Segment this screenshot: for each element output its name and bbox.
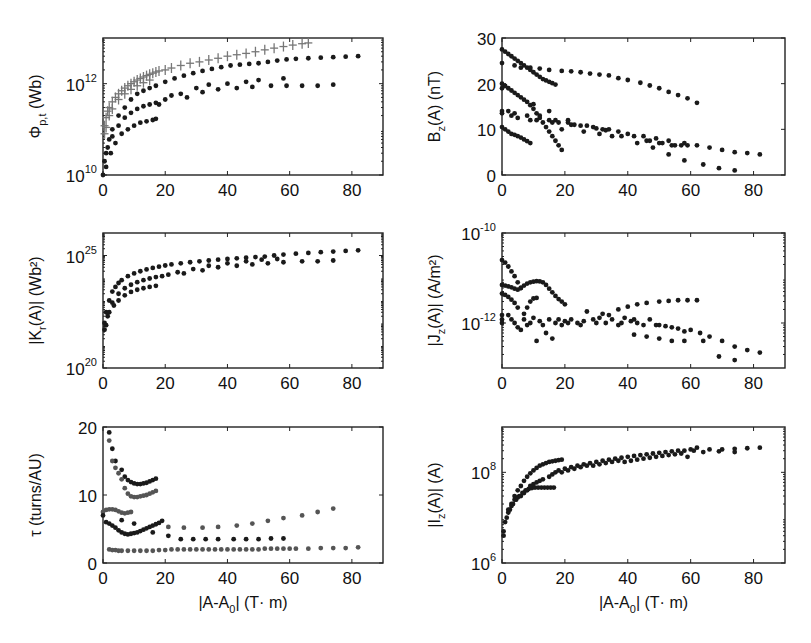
dot-marker — [306, 56, 311, 61]
dot-marker — [113, 285, 118, 290]
dot-marker — [607, 73, 612, 78]
dot-marker — [501, 533, 506, 538]
dot-marker — [531, 315, 536, 320]
dot-marker — [281, 536, 286, 541]
dot-marker — [275, 58, 280, 63]
dot-marker — [104, 165, 109, 170]
dot-marker — [625, 304, 630, 309]
dot-marker — [588, 71, 593, 76]
x-tick-label: 40 — [618, 181, 637, 200]
dot-marker — [559, 68, 564, 73]
dot-marker — [119, 548, 124, 553]
dot-marker — [129, 510, 134, 515]
y-tick-label: 106 — [471, 551, 496, 574]
dot-marker — [318, 250, 323, 255]
dot-marker — [256, 78, 261, 83]
dot-marker — [122, 286, 127, 291]
dot-marker — [625, 132, 630, 137]
x-tick-label: 40 — [218, 374, 237, 393]
dot-marker — [644, 300, 649, 305]
dot-marker — [512, 63, 517, 68]
dot-marker — [537, 66, 542, 71]
y-axis-label: |Iz(A)| (A) — [426, 462, 447, 527]
dot-marker — [594, 126, 599, 131]
x-tick-label: 80 — [342, 181, 361, 200]
dot-marker — [178, 91, 183, 96]
dot-marker — [581, 129, 586, 134]
dot-marker — [641, 323, 646, 328]
dot-marker — [166, 533, 171, 538]
dot-marker — [757, 445, 762, 450]
dot-marker — [169, 547, 174, 552]
panel-kr-helicity: 02040608010201025|Kr(A)| (Wb²) — [27, 233, 383, 393]
dot-marker — [293, 56, 298, 61]
dot-marker — [206, 547, 211, 552]
dot-marker — [225, 81, 230, 86]
dot-marker — [107, 438, 112, 443]
x-tick-label: 0 — [497, 374, 506, 393]
dot-marker — [219, 547, 224, 552]
dot-marker — [547, 68, 552, 73]
dot-marker — [666, 138, 671, 143]
dot-marker — [632, 454, 637, 459]
dot-marker — [110, 134, 115, 139]
dot-marker — [356, 545, 361, 550]
dot-marker — [594, 321, 599, 326]
dot-marker — [119, 518, 124, 523]
dot-marker — [597, 315, 602, 320]
dot-marker — [506, 264, 511, 269]
data-points — [102, 248, 360, 332]
dot-marker — [638, 453, 643, 458]
dot-marker — [540, 477, 545, 482]
dot-marker — [250, 262, 255, 267]
dot-marker — [512, 300, 517, 305]
x-tick-label: 0 — [497, 569, 506, 588]
dot-marker — [616, 76, 621, 81]
dot-marker — [244, 79, 249, 84]
dot-marker — [732, 446, 737, 451]
dot-marker — [512, 111, 517, 116]
dot-marker — [293, 251, 298, 256]
dot-marker — [616, 307, 621, 312]
dot-marker — [281, 516, 286, 521]
dot-marker — [647, 138, 652, 143]
dot-marker — [172, 76, 177, 81]
dot-marker — [135, 287, 140, 292]
dot-marker — [135, 91, 140, 96]
y-axis-label: |Jz(A)| (A/m²) — [426, 254, 447, 346]
dot-marker — [701, 450, 706, 455]
dot-marker — [610, 317, 615, 322]
dot-marker — [673, 452, 678, 457]
dot-marker — [501, 529, 506, 534]
dot-marker — [581, 319, 586, 324]
dot-marker — [500, 111, 505, 116]
dot-marker — [284, 57, 289, 62]
dot-marker — [104, 323, 109, 328]
dot-marker — [544, 331, 549, 336]
y-tick-label: 1010 — [66, 163, 97, 186]
dot-marker — [200, 90, 205, 95]
dot-marker — [685, 454, 690, 459]
dot-marker — [203, 537, 208, 542]
dot-marker — [682, 448, 687, 453]
x-tick-label: 20 — [156, 374, 175, 393]
dot-marker — [331, 506, 336, 511]
dot-marker — [101, 513, 106, 518]
dot-marker — [216, 265, 221, 270]
dot-marker — [559, 323, 564, 328]
dot-marker — [660, 141, 665, 146]
dot-marker — [515, 116, 520, 121]
dot-marker — [500, 86, 505, 91]
dot-marker — [101, 173, 106, 178]
data-points — [500, 47, 763, 173]
x-tick-label: 60 — [681, 374, 700, 393]
dot-marker — [717, 166, 722, 171]
dot-marker — [666, 453, 671, 458]
dot-marker — [153, 489, 158, 494]
x-tick-label: 20 — [156, 181, 175, 200]
dot-marker — [102, 327, 107, 332]
dot-marker — [262, 546, 267, 551]
dot-marker — [676, 298, 681, 303]
x-tick-label: 0 — [98, 569, 107, 588]
dot-marker — [135, 107, 140, 112]
